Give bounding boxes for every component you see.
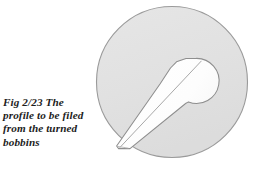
caption-line-4: bobbins <box>3 136 89 149</box>
caption-line-1: Fig 2/23 The <box>3 96 89 109</box>
caption-line-2: profile to be filed <box>3 109 89 122</box>
caption-line-3: from the turned <box>3 122 89 135</box>
figure-caption: Fig 2/23 The profile to be filed from th… <box>3 96 89 149</box>
figure-page: Fig 2/23 The profile to be filed from th… <box>0 0 259 169</box>
